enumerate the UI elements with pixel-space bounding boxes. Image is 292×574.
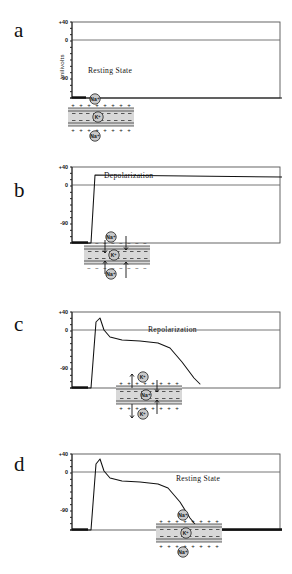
svg-text:+: + bbox=[199, 543, 203, 549]
plot-area-a bbox=[70, 20, 282, 100]
svg-text:−: − bbox=[119, 240, 123, 246]
membrane-diagram: ++++++++++++++++Na⁺K⁺K⁺ bbox=[110, 370, 188, 420]
svg-text:+: + bbox=[119, 380, 123, 386]
svg-text:−: − bbox=[127, 265, 131, 271]
panel-letter-b: b bbox=[14, 178, 25, 203]
svg-text:+: + bbox=[111, 127, 115, 133]
svg-text:+: + bbox=[103, 102, 107, 108]
membrane-diagram: ++++++++++++++++K⁺Na⁺Na⁺ bbox=[150, 508, 228, 558]
svg-text:+: + bbox=[215, 543, 219, 549]
svg-text:+: + bbox=[159, 380, 163, 386]
svg-text:Na⁺: Na⁺ bbox=[106, 234, 115, 240]
membrane-wrapper-c: ++++++++++++++++Na⁺K⁺K⁺ bbox=[110, 370, 188, 424]
svg-text:+: + bbox=[151, 405, 155, 411]
y-tick-0: 0 bbox=[46, 327, 68, 333]
svg-text:K⁺: K⁺ bbox=[95, 114, 102, 120]
svg-text:−: − bbox=[127, 240, 131, 246]
svg-text:+: + bbox=[127, 127, 131, 133]
y-tick--90: -90 bbox=[46, 507, 68, 513]
panel-b: b+400-90Depolarization−−−−−−−−−−−−−−−−K⁺… bbox=[0, 145, 292, 290]
svg-text:−: − bbox=[95, 240, 99, 246]
curve-label-d: Resting State bbox=[176, 474, 220, 483]
svg-text:+: + bbox=[119, 102, 123, 108]
svg-text:+: + bbox=[127, 380, 131, 386]
svg-text:+: + bbox=[207, 518, 211, 524]
svg-text:Na⁺: Na⁺ bbox=[141, 392, 150, 398]
svg-text:−: − bbox=[135, 265, 139, 271]
svg-text:Na⁺: Na⁺ bbox=[178, 549, 187, 555]
svg-text:+: + bbox=[79, 102, 83, 108]
svg-text:+: + bbox=[111, 102, 115, 108]
svg-text:−: − bbox=[87, 240, 91, 246]
svg-text:+: + bbox=[167, 543, 171, 549]
svg-text:K⁺: K⁺ bbox=[111, 252, 118, 258]
svg-text:−: − bbox=[135, 240, 139, 246]
panel-letter-c: c bbox=[14, 312, 23, 337]
svg-text:+: + bbox=[159, 405, 163, 411]
y-tick-+40: +40 bbox=[46, 164, 68, 170]
svg-text:+: + bbox=[79, 127, 83, 133]
plot-frame bbox=[70, 20, 282, 100]
panel-c: c+400-90Repolarization++++++++++++++++Na… bbox=[0, 290, 292, 435]
svg-text:+: + bbox=[191, 543, 195, 549]
svg-text:+: + bbox=[175, 543, 179, 549]
svg-text:K⁺: K⁺ bbox=[183, 530, 190, 536]
svg-text:K⁺: K⁺ bbox=[140, 374, 147, 380]
panel-letter-a: a bbox=[14, 18, 23, 43]
svg-text:+: + bbox=[175, 380, 179, 386]
svg-text:Na⁺: Na⁺ bbox=[90, 133, 99, 139]
membrane-wrapper-b: −−−−−−−−−−−−−−−−K⁺Na⁺Na⁺ bbox=[78, 230, 156, 284]
svg-text:+: + bbox=[71, 102, 75, 108]
svg-text:Na⁺: Na⁺ bbox=[90, 96, 99, 102]
panel-letter-d: d bbox=[14, 452, 25, 477]
svg-text:+: + bbox=[159, 543, 163, 549]
svg-text:−: − bbox=[119, 265, 123, 271]
membrane-wrapper-a: ++++++++++++++++K⁺Na⁺Na⁺ bbox=[62, 92, 140, 146]
svg-text:+: + bbox=[119, 405, 123, 411]
svg-text:+: + bbox=[127, 405, 131, 411]
y-tick--90: -90 bbox=[46, 75, 68, 81]
curve-label-b: Depolarization bbox=[104, 171, 153, 180]
svg-text:+: + bbox=[103, 127, 107, 133]
membrane-diagram: −−−−−−−−−−−−−−−−K⁺Na⁺Na⁺ bbox=[78, 230, 156, 280]
svg-text:+: + bbox=[71, 127, 75, 133]
svg-text:+: + bbox=[199, 518, 203, 524]
svg-text:+: + bbox=[207, 543, 211, 549]
y-tick-+40: +40 bbox=[46, 309, 68, 315]
svg-text:+: + bbox=[167, 518, 171, 524]
svg-text:−: − bbox=[143, 265, 147, 271]
svg-text:+: + bbox=[167, 405, 171, 411]
y-tick--90: -90 bbox=[46, 365, 68, 371]
membrane-wrapper-d: ++++++++++++++++K⁺Na⁺Na⁺ bbox=[150, 508, 228, 562]
curve-label-c: Repolarization bbox=[148, 325, 197, 334]
svg-text:+: + bbox=[167, 380, 171, 386]
svg-text:Na⁺: Na⁺ bbox=[178, 512, 187, 518]
svg-text:−: − bbox=[95, 265, 99, 271]
svg-text:−: − bbox=[143, 240, 147, 246]
svg-text:+: + bbox=[175, 405, 179, 411]
svg-text:+: + bbox=[119, 127, 123, 133]
svg-text:+: + bbox=[151, 380, 155, 386]
svg-text:+: + bbox=[135, 405, 139, 411]
membrane-diagram: ++++++++++++++++K⁺Na⁺Na⁺ bbox=[62, 92, 140, 142]
curve-label-a: Resting State bbox=[88, 66, 132, 75]
svg-text:+: + bbox=[191, 518, 195, 524]
svg-text:+: + bbox=[215, 518, 219, 524]
y-tick-0: 0 bbox=[46, 37, 68, 43]
y-tick-0: 0 bbox=[46, 182, 68, 188]
y-tick-+40: +40 bbox=[46, 19, 68, 25]
y-tick-0: 0 bbox=[46, 469, 68, 475]
svg-text:Na⁺: Na⁺ bbox=[106, 271, 115, 277]
svg-text:K⁺: K⁺ bbox=[140, 411, 147, 417]
panel-d: d+400-90Resting State++++++++++++++++K⁺N… bbox=[0, 432, 292, 574]
svg-text:+: + bbox=[127, 102, 131, 108]
panel-a: amilivolts+400-90Resting State++++++++++… bbox=[0, 0, 292, 145]
y-tick--90: -90 bbox=[46, 220, 68, 226]
svg-text:+: + bbox=[159, 518, 163, 524]
svg-text:−: − bbox=[87, 265, 91, 271]
y-tick-+40: +40 bbox=[46, 451, 68, 457]
svg-text:+: + bbox=[87, 127, 91, 133]
